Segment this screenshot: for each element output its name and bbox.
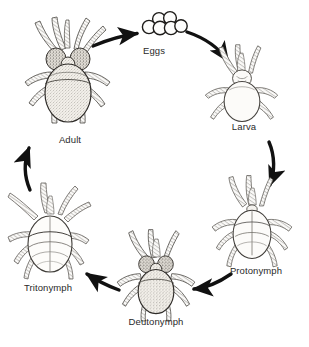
arrow-protonymph-to-deutonymph (194, 274, 231, 289)
stage-label-adult: Adult (50, 134, 90, 145)
stage-label-protonymph: Protonymph (219, 265, 293, 276)
stage-label-deutonymph: Deutonymph (118, 316, 194, 327)
stage-art-larva (205, 45, 277, 122)
stage-art-deutonymph (117, 230, 195, 321)
stage-label-larva: Larva (222, 121, 266, 132)
arrow-deutonymph-to-tritonymph (87, 274, 119, 290)
stage-art-adult (25, 17, 110, 123)
mite-life-cycle-diagram: Eggs Larva Protonymph Deutonymph Tritony… (0, 0, 309, 347)
stage-art-protonymph (212, 176, 292, 267)
stage-label-eggs: Eggs (134, 45, 174, 56)
stage-label-tritonymph: Tritonymph (12, 282, 84, 293)
arrow-tritonymph-to-adult (25, 148, 30, 190)
stage-art-eggs (142, 12, 187, 35)
stage-art-tritonymph (8, 183, 91, 279)
